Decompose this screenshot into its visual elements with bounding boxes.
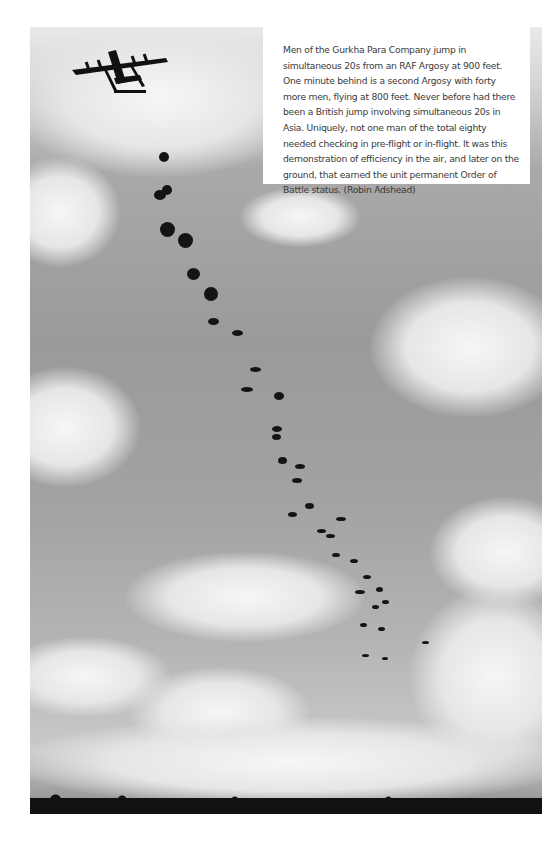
parachute: [160, 222, 175, 237]
parachute: [363, 575, 371, 579]
aircraft-silhouette: [70, 42, 170, 102]
photo-caption-text: Men of the Gurkha Para Company jump in s…: [283, 42, 520, 198]
parachute: [204, 287, 218, 301]
parachute: [292, 478, 302, 483]
parachute: [376, 587, 383, 592]
parachute: [232, 330, 243, 336]
cloud: [30, 157, 120, 267]
cloud: [370, 277, 542, 417]
parachute: [336, 517, 346, 521]
parachute: [355, 590, 365, 594]
parachute: [362, 654, 369, 657]
parachute: [274, 392, 284, 400]
parachute: [208, 318, 219, 325]
photo-caption-box: Men of the Gurkha Para Company jump in s…: [263, 27, 530, 184]
parachute: [241, 387, 253, 392]
parachute: [382, 657, 388, 660]
parachute: [272, 434, 281, 440]
parachute: [278, 457, 287, 464]
parachute: [326, 534, 335, 538]
parachute: [332, 553, 340, 557]
parachute: [162, 185, 172, 195]
parachute: [350, 559, 358, 563]
treeline-horizon: [30, 798, 542, 814]
parachute: [295, 464, 305, 469]
parachute: [360, 623, 367, 627]
parachute: [187, 268, 200, 280]
cloud: [30, 367, 140, 487]
cloud: [125, 552, 365, 642]
parachute: [378, 627, 385, 631]
parachute: [382, 600, 389, 604]
parachute: [250, 367, 261, 372]
parachute: [159, 152, 169, 162]
parachute: [372, 605, 379, 609]
parachute: [305, 503, 314, 509]
parachute: [317, 529, 326, 533]
parachute: [288, 512, 297, 517]
parachute: [178, 233, 193, 248]
parachute: [422, 641, 429, 644]
parachute: [272, 426, 282, 432]
